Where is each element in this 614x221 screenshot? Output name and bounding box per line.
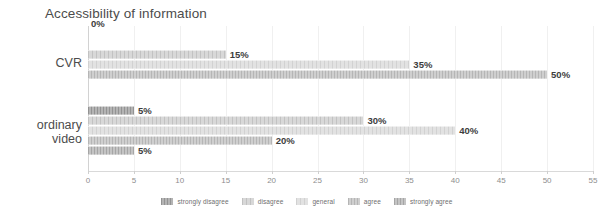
bar-label-ordinary-strongly-disagree: 5% xyxy=(138,105,152,116)
gridline xyxy=(547,26,548,171)
x-tick-label: 50 xyxy=(543,176,552,185)
bar-label-cvr-agree: 50% xyxy=(551,69,570,80)
bar-ordinary-general xyxy=(88,126,455,135)
x-tick-label: 55 xyxy=(589,176,598,185)
gridline xyxy=(455,26,456,171)
bar-cvr-agree xyxy=(88,70,547,79)
x-tick-label: 40 xyxy=(451,176,460,185)
x-tick-mark xyxy=(226,171,227,174)
category-label-ordinary-video: ordinary video xyxy=(0,118,82,146)
bar-chart: Accessibility of information CVR ordinar… xyxy=(0,0,614,221)
x-tick-label: 20 xyxy=(267,176,276,185)
x-tick-label: 0 xyxy=(86,176,90,185)
gridline xyxy=(134,26,135,171)
gridline xyxy=(272,26,273,171)
legend-swatch-disagree xyxy=(242,198,254,205)
x-tick-mark xyxy=(547,171,548,174)
x-tick-mark xyxy=(134,171,135,174)
x-tick-mark xyxy=(272,171,273,174)
x-tick-mark xyxy=(180,171,181,174)
x-tick-label: 25 xyxy=(313,176,322,185)
bar-cvr-general xyxy=(88,60,409,69)
chart-legend: strongly disagree disagree general agree… xyxy=(0,198,614,205)
bar-cvr-disagree xyxy=(88,50,226,59)
legend-swatch-strongly-disagree xyxy=(161,198,173,205)
legend-label-disagree: disagree xyxy=(258,198,284,205)
legend-label-agree: agree xyxy=(364,198,381,205)
category-label-ordinary-line2: video xyxy=(0,132,82,146)
x-tick-label: 15 xyxy=(221,176,230,185)
category-label-ordinary-line1: ordinary xyxy=(0,118,82,132)
bar-label-cvr-general: 35% xyxy=(413,59,432,70)
x-tick-label: 30 xyxy=(359,176,368,185)
gridline xyxy=(593,26,594,171)
gridline xyxy=(409,26,410,171)
bar-ordinary-strongly-agree xyxy=(88,146,134,155)
x-tick-mark xyxy=(363,171,364,174)
x-tick-mark xyxy=(593,171,594,174)
bar-ordinary-agree xyxy=(88,136,272,145)
x-tick-label: 45 xyxy=(497,176,506,185)
plot-area: 0510152025303540455055 0% 15% 35% 50% xyxy=(88,26,593,171)
category-label-cvr: CVR xyxy=(0,56,82,70)
bar-label-cvr-strongly-disagree: 0% xyxy=(91,18,105,29)
legend-swatch-agree xyxy=(348,198,360,205)
x-tick-mark xyxy=(88,171,89,174)
legend-swatch-general xyxy=(296,198,308,205)
gridline xyxy=(318,26,319,171)
bar-label-ordinary-strongly-agree: 5% xyxy=(138,145,152,156)
x-tick-label: 35 xyxy=(405,176,414,185)
legend-item-strongly-agree: strongly agree xyxy=(394,198,453,205)
gridline xyxy=(180,26,181,171)
bar-label-cvr-disagree: 15% xyxy=(230,49,249,60)
legend-item-strongly-disagree: strongly disagree xyxy=(161,198,228,205)
x-tick-mark xyxy=(455,171,456,174)
gridline xyxy=(363,26,364,171)
legend-item-general: general xyxy=(296,198,334,205)
bar-ordinary-disagree xyxy=(88,116,363,125)
gridline xyxy=(501,26,502,171)
legend-swatch-strongly-agree xyxy=(394,198,406,205)
bar-label-ordinary-general: 40% xyxy=(459,125,478,136)
bar-ordinary-strongly-disagree xyxy=(88,106,134,115)
x-tick-mark xyxy=(409,171,410,174)
x-tick-label: 5 xyxy=(132,176,136,185)
x-tick-mark xyxy=(501,171,502,174)
x-axis-line xyxy=(88,171,593,172)
legend-item-disagree: disagree xyxy=(242,198,284,205)
chart-title: Accessibility of information xyxy=(45,6,207,21)
legend-item-agree: agree xyxy=(348,198,381,205)
legend-label-strongly-agree: strongly agree xyxy=(410,198,453,205)
gridline xyxy=(226,26,227,171)
x-tick-label: 10 xyxy=(175,176,184,185)
legend-label-general: general xyxy=(312,198,334,205)
x-tick-mark xyxy=(318,171,319,174)
bar-label-ordinary-agree: 20% xyxy=(276,135,295,146)
legend-label-strongly-disagree: strongly disagree xyxy=(177,198,228,205)
bar-label-ordinary-disagree: 30% xyxy=(367,115,386,126)
